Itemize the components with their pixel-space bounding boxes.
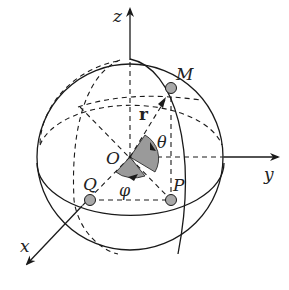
diagram-canvas: z y x M P Q O r θ φ [0, 0, 289, 290]
vector-r-label: r [139, 104, 149, 124]
theta-label: θ [157, 133, 167, 152]
point-m [166, 83, 177, 94]
point-q [85, 195, 96, 206]
point-p-label: P [172, 175, 185, 195]
meridian-back-left [40, 61, 118, 145]
phi-label: φ [119, 181, 131, 200]
point-m-label: M [175, 64, 194, 84]
x-axis-outer [27, 206, 82, 264]
point-p [166, 195, 177, 206]
origin-label: O [106, 148, 120, 168]
point-q-label: Q [83, 174, 97, 194]
x-axis-label: x [20, 236, 30, 256]
origin-dot [129, 156, 132, 159]
vector-r-arrowhead [158, 97, 166, 108]
y-axis-label: y [263, 164, 274, 184]
z-axis-label: z [112, 6, 123, 26]
spherical-coordinates-diagram: z y x M P Q O r θ φ [0, 0, 289, 290]
